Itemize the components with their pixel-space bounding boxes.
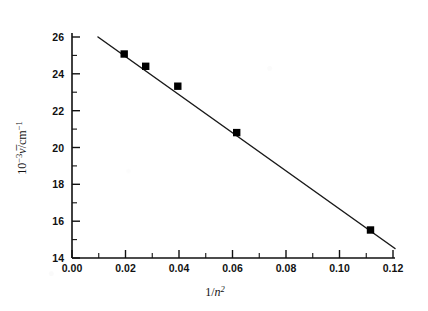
x-tick-label: 0.08 xyxy=(276,262,297,274)
x-tick-label: 0.06 xyxy=(222,262,243,274)
y-tick-label: 20 xyxy=(52,142,64,154)
chart-svg: 0.00 0.02 0.04 0.06 0.08 0.10 0.12 14 16… xyxy=(0,0,428,311)
y-tick-label: 14 xyxy=(52,252,64,264)
data-point-marker xyxy=(142,63,149,70)
y-tick-label: 16 xyxy=(52,215,64,227)
y-tick-label: 26 xyxy=(52,31,64,43)
x-tick-label: 0.02 xyxy=(115,262,136,274)
x-tick-label: 0.00 xyxy=(62,262,83,274)
x-tick-label: 0.10 xyxy=(329,262,350,274)
y-axis-title-base-exponent: −3 xyxy=(14,154,24,163)
y-axis-title-unit-exponent: −1 xyxy=(14,121,24,130)
data-point-marker xyxy=(121,50,128,57)
y-tick-label: 22 xyxy=(52,105,64,117)
x-tick-label: 0.12 xyxy=(383,262,404,274)
chart-figure: 0.00 0.02 0.04 0.06 0.08 0.10 0.12 14 16… xyxy=(0,0,428,311)
y-axis-title-divider: /cm xyxy=(15,130,29,149)
data-point-marker xyxy=(174,83,181,90)
y-tick-label: 18 xyxy=(52,178,64,190)
x-tick-label: 0.04 xyxy=(169,262,190,274)
y-tick-label: 24 xyxy=(52,68,64,80)
data-point-marker xyxy=(233,129,240,136)
data-point-marker xyxy=(367,226,374,233)
y-axis-title-base: 10 xyxy=(15,163,29,175)
